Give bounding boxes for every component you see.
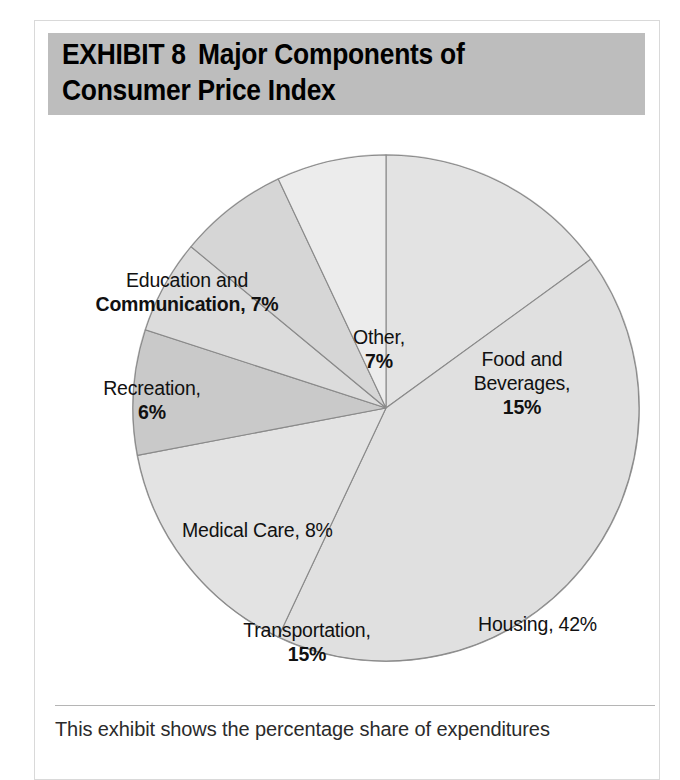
label-line: Beverages, — [474, 372, 571, 394]
slice-label-food-and-beverages: Food andBeverages,15% — [442, 347, 602, 419]
label-line: Housing, 42% — [478, 613, 597, 635]
label-line: Education and — [126, 269, 248, 291]
caption-divider — [55, 705, 655, 706]
slice-label-transportation: Transportation,15% — [202, 618, 412, 666]
label-line: Communication, 7% — [96, 293, 279, 315]
label-line: Transportation, — [243, 619, 370, 641]
pie-chart: Education andCommunication, 7% Recreatio… — [34, 120, 660, 700]
page-title: EXHIBIT 8Major Components of Consumer Pr… — [62, 36, 572, 108]
slice-label-education-and-communication: Education andCommunication, 7% — [62, 268, 312, 316]
label-line: 15% — [503, 396, 541, 418]
label-line: Medical Care, 8% — [182, 519, 333, 541]
label-line: 7% — [365, 350, 393, 372]
label-line: Food and — [482, 348, 563, 370]
label-line: 15% — [288, 643, 326, 665]
label-line: 6% — [138, 401, 166, 423]
exhibit-caption: This exhibit shows the percentage share … — [55, 716, 661, 742]
slice-label-medical-care: Medical Care, 8% — [182, 518, 412, 542]
label-line: Recreation, — [103, 377, 201, 399]
slice-label-housing: Housing, 42% — [478, 612, 678, 636]
slice-label-recreation: Recreation,6% — [52, 376, 252, 424]
label-line: Other, — [353, 326, 405, 348]
exhibit-number-label: EXHIBIT 8 — [62, 37, 186, 70]
slice-label-other: Other,7% — [334, 325, 424, 373]
